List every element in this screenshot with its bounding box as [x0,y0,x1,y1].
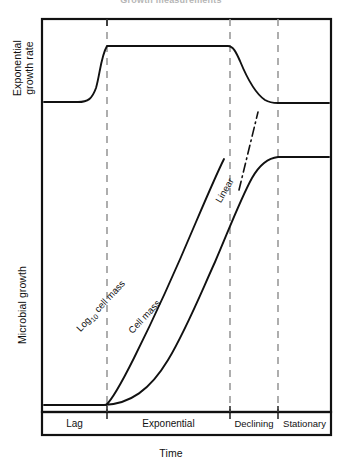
curve-cell-mass [44,157,329,405]
chart-title: Growth measurements [0,0,342,4]
phase-label-declining: Declining [230,417,278,431]
y-axis-label-microbial-growth: Microbial growth [16,235,28,375]
curve-exponential-growth-rate [44,46,329,103]
phase-label-exponential: Exponential [107,417,230,431]
phase-label-lag: Lag [42,417,107,431]
curve-linear [239,112,258,190]
y-axis-label-growth-rate: Exponential growth rate [11,18,35,118]
growth-curve-figure: Growth measurements Exponential growth r… [0,0,342,468]
chart-canvas [0,0,342,468]
y-axis-label-growth-rate-line1: Exponential [11,40,23,96]
y-axis-label-growth-rate-line2: growth rate [23,18,35,118]
plot-frame [42,19,331,412]
x-axis-label-time: Time [0,447,342,459]
phase-label-stationary: Stationary [278,417,331,431]
